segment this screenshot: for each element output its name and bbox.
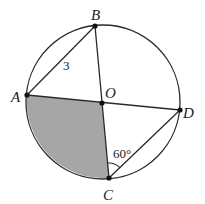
- angle-arc-c: [108, 163, 120, 168]
- segment-ab: [27, 26, 95, 95]
- point-b: [92, 23, 97, 28]
- circle-diagram: B A O D C 3 60°: [0, 0, 205, 204]
- segment-cd: [109, 110, 180, 178]
- point-o: [99, 100, 104, 105]
- segment-ab-length: 3: [63, 58, 70, 73]
- point-a: [24, 92, 29, 97]
- shaded-sector-aoc: [27, 95, 109, 178]
- label-a: A: [10, 89, 21, 105]
- point-c: [106, 175, 111, 180]
- angle-label: 60°: [113, 146, 131, 161]
- label-c: C: [103, 187, 114, 203]
- point-d: [177, 107, 182, 112]
- label-o: O: [105, 85, 116, 101]
- label-d: D: [182, 105, 194, 121]
- label-b: B: [91, 7, 100, 23]
